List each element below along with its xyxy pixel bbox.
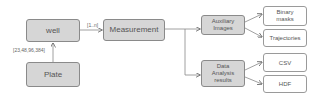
node-data-analysis-results-label: Data Analysis results — [208, 63, 238, 84]
node-plate-label: Plate — [44, 71, 62, 79]
edge-measurement-data-analysis — [185, 29, 200, 75]
edge-auxiliary-binary — [245, 14, 262, 22]
edge-data-hdf — [245, 77, 262, 84]
node-trajectories-label: Trajectories — [269, 34, 300, 42]
node-binary-masks-label: Binary masks — [272, 9, 298, 23]
node-binary-masks: Binary masks — [263, 6, 307, 26]
node-plate: Plate — [26, 62, 80, 87]
edge-data-csv — [245, 62, 262, 70]
edge-label-well-measurement: [1..n] — [87, 22, 98, 28]
node-auxiliary-images: Auxiliary Images — [201, 15, 245, 35]
node-measurement-label: Measurement — [110, 26, 159, 34]
node-csv: CSV — [263, 53, 307, 72]
node-well-label: well — [46, 27, 60, 35]
edge-label-plate-well: [23,48,96,384] — [13, 47, 45, 53]
node-data-analysis-results: Data Analysis results — [201, 60, 245, 87]
edge-auxiliary-trajectories — [245, 28, 262, 37]
node-trajectories: Trajectories — [263, 29, 307, 47]
node-csv-label: CSV — [279, 59, 291, 67]
node-well: well — [26, 19, 80, 42]
node-hdf-label: HDF — [279, 80, 291, 88]
node-hdf: HDF — [263, 75, 307, 93]
node-measurement: Measurement — [103, 19, 165, 41]
node-auxiliary-images-label: Auxiliary Images — [206, 18, 240, 32]
